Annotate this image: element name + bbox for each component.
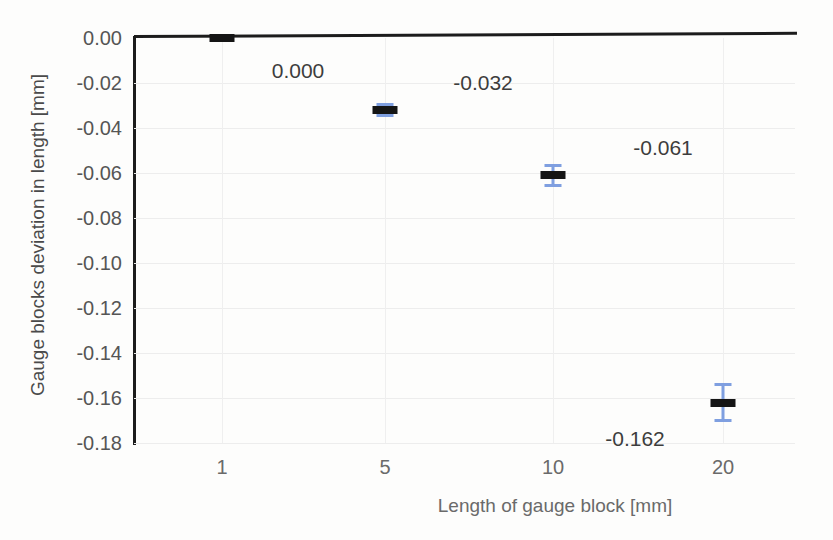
error-bar-cap-bottom bbox=[377, 114, 394, 117]
y-tick-label: -0.10 bbox=[76, 253, 122, 273]
x-tick-label: 20 bbox=[712, 457, 734, 477]
gridline-horizontal bbox=[134, 353, 795, 354]
plot-area: 0.000-0.032-0.061-0.162 bbox=[134, 38, 795, 443]
error-bar-cap-top bbox=[715, 383, 732, 386]
data-point bbox=[207, 8, 237, 68]
gridline-horizontal bbox=[134, 398, 795, 399]
y-tick-label: -0.12 bbox=[76, 298, 122, 318]
x-tick-label: 5 bbox=[379, 457, 390, 477]
error-bar-cap-bottom bbox=[545, 184, 562, 187]
gridline-horizontal bbox=[134, 443, 795, 444]
gridline-horizontal bbox=[134, 218, 795, 219]
data-point-marker bbox=[373, 106, 398, 114]
y-tick-label: -0.06 bbox=[76, 163, 122, 183]
gridline-vertical bbox=[222, 38, 223, 443]
error-bar-cap-bottom bbox=[715, 419, 732, 422]
y-tick-label: 0.00 bbox=[83, 28, 122, 48]
data-point bbox=[538, 145, 568, 205]
data-value-label: -0.162 bbox=[605, 427, 665, 448]
y-tick-label: -0.16 bbox=[76, 388, 122, 408]
data-point-marker bbox=[541, 171, 566, 179]
y-axis-tick-labels: 0.00-0.02-0.04-0.06-0.08-0.10-0.12-0.14-… bbox=[44, 0, 122, 540]
gridline-horizontal bbox=[134, 308, 795, 309]
gridline-horizontal bbox=[134, 173, 795, 174]
y-tick-label: -0.08 bbox=[76, 208, 122, 228]
data-value-label: 0.000 bbox=[272, 60, 325, 81]
y-tick-label: -0.02 bbox=[76, 73, 122, 93]
data-point bbox=[370, 80, 400, 140]
x-tick-label: 10 bbox=[542, 457, 564, 477]
y-axis-title: Gauge blocks deviation in length [mm] bbox=[27, 25, 49, 445]
y-tick-label: -0.14 bbox=[76, 343, 122, 363]
chart-page: 0.00-0.02-0.04-0.06-0.08-0.10-0.12-0.14-… bbox=[0, 0, 833, 540]
gridline-horizontal bbox=[134, 128, 795, 129]
data-value-label: -0.061 bbox=[633, 137, 693, 158]
gridline-horizontal bbox=[134, 263, 795, 264]
y-tick-label: -0.18 bbox=[76, 433, 122, 453]
data-value-label: -0.032 bbox=[453, 72, 513, 93]
x-tick-label: 1 bbox=[216, 457, 227, 477]
gridline-vertical bbox=[553, 38, 554, 443]
y-tick-label: -0.04 bbox=[76, 118, 122, 138]
error-bar-cap-top bbox=[545, 164, 562, 167]
data-point-marker bbox=[210, 34, 235, 42]
x-axis-title: Length of gauge block [mm] bbox=[438, 495, 672, 517]
data-point bbox=[708, 373, 738, 433]
data-point-marker bbox=[711, 399, 736, 407]
